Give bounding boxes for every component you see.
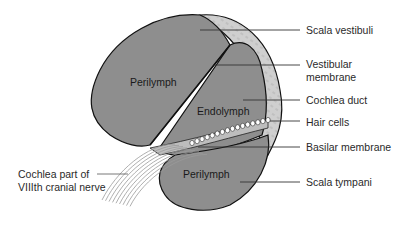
callout-hair-cells: Hair cells [306, 116, 349, 128]
cochlea-diagram: Perilymph Endolymph Perilymph Scala vest… [0, 0, 403, 226]
hair-cell [230, 126, 234, 131]
callout-scala-tympani: Scala tympani [306, 176, 372, 188]
callout-basilar-membrane: Basilar membrane [306, 141, 391, 153]
hair-cell [241, 123, 245, 128]
nerve-label-l1: Cochlea part of [18, 168, 89, 180]
hair-cell [235, 125, 239, 130]
hair-cell [205, 135, 209, 140]
hair-cell [246, 122, 250, 127]
callout-cochlea-duct: Cochlea duct [306, 94, 367, 106]
hair-cell [266, 117, 270, 122]
hair-cell [195, 139, 199, 144]
hair-cell [261, 119, 265, 124]
callout-vestibular-membrane-l1: Vestibular [306, 58, 353, 70]
hair-cell [251, 121, 255, 126]
hair-cell [190, 140, 194, 145]
hair-cell [220, 129, 224, 134]
hair-cell [225, 128, 229, 133]
callout-scala-vestibuli: Scala vestibuli [306, 24, 373, 36]
region-label-endolymph: Endolymph [197, 105, 250, 117]
region-label-perilymph-upper: Perilymph [130, 76, 177, 88]
nerve-label-l2: VIIIth cranial nerve [18, 181, 106, 193]
hair-cell [200, 137, 204, 142]
hair-cell [256, 120, 260, 125]
callout-vestibular-membrane-l2: membrane [306, 71, 356, 83]
hair-cell [215, 131, 219, 136]
hair-cell [210, 133, 214, 138]
region-label-perilymph-lower: Perilymph [183, 168, 230, 180]
